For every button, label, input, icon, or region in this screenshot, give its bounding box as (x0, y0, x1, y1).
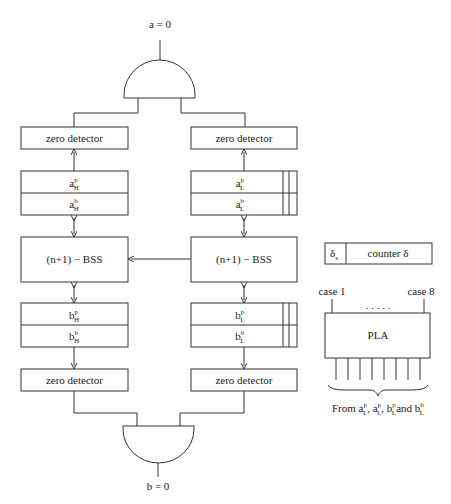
right-zero-detector-top-label: zero detector (215, 132, 272, 144)
top-output-label: a = 0 (149, 18, 172, 30)
counter-block: δs counter δ (325, 243, 432, 264)
wire-left-to-bottom-gate (74, 391, 137, 426)
bottom-output-label: b = 0 (147, 480, 170, 492)
pla-case-8-label: case 8 (407, 285, 435, 297)
counter-label: counter δ (368, 247, 409, 259)
wire-right-to-bottom-gate (180, 391, 244, 426)
pla-label: PLA (368, 329, 389, 341)
right-bss-label: (n+1) − BSS (216, 253, 272, 266)
pla-block: case 1 case 8 . . . . . PLA From apL, ap… (318, 285, 435, 417)
left-column: zero detector apH abH (n+1) − BSS bpH bb… (21, 127, 128, 391)
bss-diagram: a = 0 zero detector apH abH (n+1) − BSS … (0, 0, 451, 504)
pla-output-dots: . . . . . (366, 299, 391, 311)
bottom-and-gate (123, 426, 194, 463)
pla-input-brace (328, 385, 428, 396)
right-column: zero detector apL abL (n+1) − BSS bpL bb… (191, 127, 297, 391)
left-zero-detector-top-label: zero detector (46, 132, 103, 144)
pla-case-1-label: case 1 (318, 285, 345, 297)
wire-gate-right-top (181, 98, 245, 127)
left-zero-detector-bottom-label: zero detector (46, 374, 103, 386)
right-zero-detector-bottom-label: zero detector (215, 374, 272, 386)
pla-input-lines (336, 358, 420, 380)
wire-gate-left-top (74, 98, 138, 127)
pla-caption: From apL, apL, bpLand bbL (332, 401, 424, 417)
left-bss-label: (n+1) − BSS (47, 253, 103, 266)
top-and-gate (124, 60, 195, 98)
